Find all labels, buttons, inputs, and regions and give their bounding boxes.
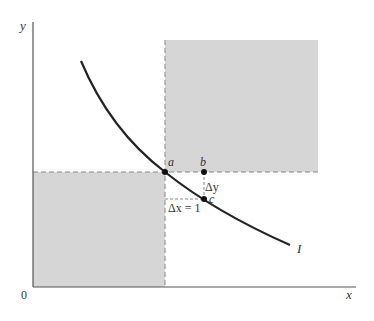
curve-label: I: [296, 241, 302, 256]
shaded-area-bottom-left: [33, 172, 165, 287]
origin-label: 0: [21, 288, 27, 302]
indifference-diagram: y x 0 a b c Δy Δx = 1 I: [0, 0, 374, 321]
x-axis-label: x: [345, 287, 352, 302]
label-delta-x: Δx = 1: [168, 201, 200, 215]
point-b: [201, 169, 207, 175]
label-c: c: [209, 192, 215, 206]
point-c: [201, 196, 207, 202]
point-a: [162, 169, 168, 175]
label-delta-y: Δy: [205, 180, 219, 194]
label-a: a: [168, 155, 174, 169]
shaded-area-top-right: [165, 40, 318, 172]
y-axis-label: y: [18, 18, 26, 33]
label-b: b: [200, 155, 206, 169]
